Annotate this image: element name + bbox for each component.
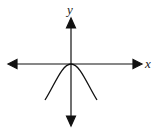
y-axis [67, 18, 76, 126]
y-axis-up-arrow-icon [67, 18, 76, 28]
coordinate-plane: y x [0, 0, 159, 128]
y-axis-down-arrow-icon [67, 116, 76, 126]
x-axis [8, 60, 142, 69]
x-axis-left-arrow-icon [8, 60, 17, 69]
x-axis-right-arrow-icon [133, 60, 142, 69]
y-axis-label: y [65, 2, 73, 17]
x-axis-label: x [144, 56, 151, 71]
